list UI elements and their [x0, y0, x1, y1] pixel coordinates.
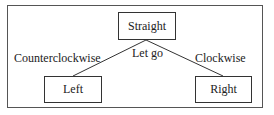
node-right: Right — [195, 76, 252, 103]
node-left: Left — [44, 76, 102, 103]
edge-label-clockwise: Clockwise — [195, 51, 246, 66]
edge-label-counterclockwise: Counterclockwise — [14, 51, 101, 66]
node-straight: Straight — [118, 12, 176, 40]
edge-label-let-go: Let go — [132, 46, 163, 61]
